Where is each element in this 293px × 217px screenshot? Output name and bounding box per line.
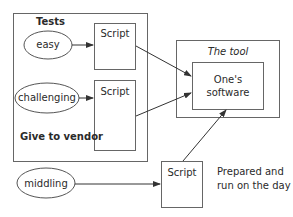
- note-line1: Prepared and: [217, 166, 284, 178]
- software-label-line1: One's: [192, 74, 264, 86]
- software-box: [193, 63, 264, 110]
- tool-title: The tool: [176, 46, 280, 58]
- script-3-label: Script: [161, 167, 203, 179]
- test-challenging-label: challenging: [15, 92, 79, 104]
- tests-group-footer: Give to vendor: [20, 131, 103, 143]
- test-middling-label: middling: [17, 178, 75, 190]
- tests-group-title: Tests: [36, 16, 65, 28]
- software-label-line2: software: [192, 87, 264, 99]
- note-line2: run on the day: [217, 180, 291, 192]
- test-easy-label: easy: [24, 39, 72, 51]
- script-1-label: Script: [94, 28, 136, 40]
- arrow-script2-to-software: [136, 93, 191, 116]
- script-2-label: Script: [94, 86, 136, 98]
